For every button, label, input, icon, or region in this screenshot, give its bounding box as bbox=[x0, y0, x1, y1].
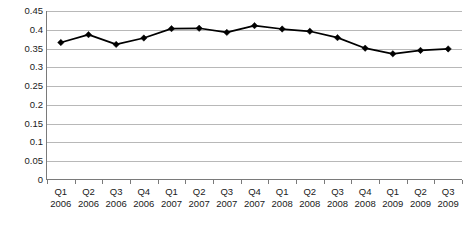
x-tick bbox=[462, 180, 463, 184]
y-tick-label: 0 bbox=[3, 175, 43, 185]
data-point bbox=[307, 28, 313, 34]
x-tick bbox=[379, 180, 380, 184]
data-point bbox=[279, 26, 285, 32]
data-point bbox=[417, 47, 423, 53]
y-tick-label: 0.15 bbox=[3, 119, 43, 129]
plot-area bbox=[47, 11, 462, 180]
series-line bbox=[61, 26, 448, 54]
data-point bbox=[224, 29, 230, 35]
x-label-year: 2009 bbox=[430, 198, 466, 210]
x-tick bbox=[268, 180, 269, 184]
x-tick bbox=[351, 180, 352, 184]
x-tick bbox=[407, 180, 408, 184]
x-tick bbox=[130, 180, 131, 184]
x-label-quarter: Q3 bbox=[430, 186, 466, 198]
x-tick bbox=[185, 180, 186, 184]
y-tick-label: 0.05 bbox=[3, 156, 43, 166]
y-tick-label: 0.45 bbox=[3, 6, 43, 16]
x-tick bbox=[296, 180, 297, 184]
data-point bbox=[390, 51, 396, 57]
x-tick bbox=[158, 180, 159, 184]
x-tick bbox=[213, 180, 214, 184]
y-tick-label: 0.1 bbox=[3, 137, 43, 147]
x-tick bbox=[102, 180, 103, 184]
x-tick bbox=[75, 180, 76, 184]
x-axis-labels: Q12006Q22006Q32006Q42006Q12007Q22007Q320… bbox=[47, 186, 462, 218]
y-tick-label: 0.2 bbox=[3, 100, 43, 110]
data-point bbox=[141, 35, 147, 41]
data-point bbox=[113, 41, 119, 47]
y-tick-label: 0.25 bbox=[3, 81, 43, 91]
x-tick-label: Q32009 bbox=[430, 186, 466, 210]
series-markers bbox=[58, 22, 452, 57]
x-tick bbox=[324, 180, 325, 184]
x-tick bbox=[434, 180, 435, 184]
data-point bbox=[85, 31, 91, 37]
line-chart: 0.450.40.350.30.250.20.150.10.050 Q12006… bbox=[0, 0, 473, 229]
data-point bbox=[168, 25, 174, 31]
data-point bbox=[362, 45, 368, 51]
series-layer bbox=[47, 11, 462, 180]
data-point bbox=[196, 25, 202, 31]
data-point bbox=[251, 22, 257, 28]
data-point bbox=[334, 34, 340, 40]
data-point bbox=[58, 39, 64, 45]
y-tick-label: 0.3 bbox=[3, 62, 43, 72]
x-tick bbox=[47, 180, 48, 184]
y-tick-label: 0.4 bbox=[3, 25, 43, 35]
data-point bbox=[445, 46, 451, 52]
y-axis-labels: 0.450.40.350.30.250.20.150.10.050 bbox=[0, 0, 43, 229]
x-axis-ticks bbox=[47, 180, 462, 185]
x-tick bbox=[241, 180, 242, 184]
y-tick-label: 0.35 bbox=[3, 44, 43, 54]
